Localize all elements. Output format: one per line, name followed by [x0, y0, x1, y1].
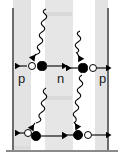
photon-arrow-top-right — [75, 31, 81, 60]
carrier-electron-bottom-left — [31, 131, 41, 141]
carrier-electron-top-right — [78, 63, 87, 72]
texture-speck — [14, 146, 30, 149]
texture-speck — [46, 12, 72, 16]
junction-boundary-right — [107, 8, 109, 151]
texture-speck — [46, 96, 72, 100]
region-label-p-right: p — [99, 72, 106, 85]
carrier-electron-bottom-right — [73, 130, 83, 140]
pnp-junction-diagram: p n p — [0, 0, 124, 161]
region-label-p-left: p — [18, 72, 25, 85]
carrier-electron-top-left — [37, 61, 46, 70]
diagram-baseline — [6, 150, 118, 152]
region-label-n-mid: n — [57, 72, 64, 85]
carrier-hole-top-left — [28, 62, 36, 70]
carrier-hole-bottom-right — [84, 131, 92, 139]
photon-arrow-bottom-right — [73, 75, 83, 128]
junction-boundary-left — [12, 8, 14, 151]
